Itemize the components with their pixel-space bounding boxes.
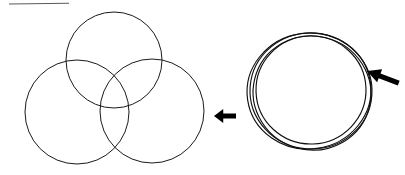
diagram-illustration (0, 0, 405, 175)
overlapping-concentric-circles (240, 23, 384, 162)
coil-circle-3 (241, 23, 383, 162)
three-circle-venn-diagram (25, 12, 204, 164)
top-horizontal-rule (9, 3, 69, 4)
figure-canvas (0, 0, 405, 175)
coil-circle-2 (246, 29, 376, 153)
arrow-left-middle (214, 109, 236, 123)
arrow-left-middle-glyph (214, 109, 236, 123)
coil-circle-1 (240, 25, 379, 157)
